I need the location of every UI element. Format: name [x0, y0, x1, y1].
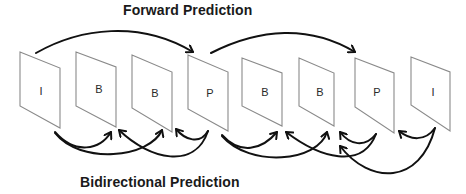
frame-4: B	[242, 58, 282, 126]
bidir-arrow	[399, 128, 435, 138]
forward-arrow-i-to-p	[36, 31, 193, 53]
bidir-arrow	[340, 128, 435, 173]
frame-7: I	[411, 57, 450, 131]
frame-5: B	[299, 58, 334, 126]
frame-2: B	[132, 55, 172, 132]
frame-label: B	[261, 86, 268, 98]
bidir-arrow	[119, 130, 208, 157]
frame-label: B	[316, 86, 323, 98]
bidirectional-prediction-title: Bidirectional Prediction	[80, 174, 240, 190]
forward-arrow-p-to-p	[211, 33, 355, 53]
frame-label: P	[373, 86, 380, 98]
gop-diagram: I B B P B B P I	[0, 0, 466, 194]
bidir-arrow	[176, 129, 208, 140]
bidir-arrow	[340, 132, 376, 143]
frame-6: P	[355, 58, 394, 133]
bidir-arrow	[55, 130, 162, 154]
frame-label: I	[431, 86, 434, 98]
bidir-arrow	[222, 132, 277, 148]
frame-3: P	[188, 55, 228, 131]
frame-label: P	[206, 87, 213, 99]
frame-label: I	[39, 85, 42, 97]
frame-label: B	[95, 83, 102, 95]
bidir-arrow	[286, 132, 376, 157]
bidir-arrow	[55, 132, 111, 147]
frame-label: B	[151, 87, 158, 99]
frame-0: I	[20, 52, 60, 128]
frame-1: B	[76, 52, 116, 127]
